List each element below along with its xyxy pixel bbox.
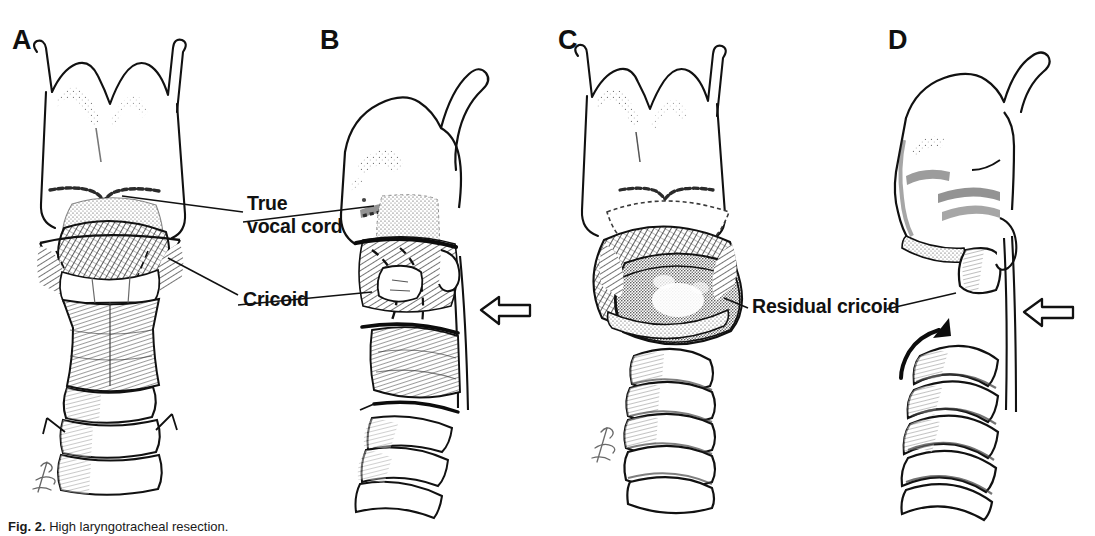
panel-a-artwork xyxy=(33,40,243,495)
panel-d-artwork xyxy=(887,53,1050,521)
panel-c-artwork xyxy=(575,45,748,513)
hollow-arrow-d-icon xyxy=(1024,299,1073,326)
annotation-true-vocal-cord-line1: True xyxy=(247,192,343,215)
figure-container: A B C D True vocal cord Cricoid Residual… xyxy=(0,0,1095,536)
figure-caption: Fig. 2. High laryngotracheal resection. xyxy=(8,519,1088,534)
figure-caption-text: High laryngotracheal resection. xyxy=(49,519,228,534)
panel-label-a: A xyxy=(12,27,32,54)
panel-label-b: B xyxy=(320,27,340,54)
annotation-true-vocal-cord: True vocal cord xyxy=(247,192,343,237)
annotation-cricoid: Cricoid xyxy=(243,288,309,311)
panel-label-d: D xyxy=(888,27,908,54)
annotation-true-vocal-cord-line2: vocal cord xyxy=(247,215,343,238)
panel-label-c: C xyxy=(558,27,578,54)
figure-artwork xyxy=(0,0,1095,536)
annotation-residual-cricoid: Residual cricoid xyxy=(752,295,899,318)
figure-caption-label: Fig. 2. xyxy=(8,519,46,534)
hollow-arrow-b-icon xyxy=(481,297,530,324)
